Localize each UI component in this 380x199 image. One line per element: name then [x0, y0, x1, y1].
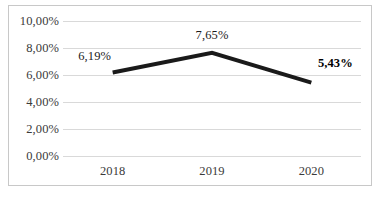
y-axis-tick-label: 10,00% [20, 14, 59, 29]
series-polyline [113, 53, 312, 83]
chart-frame: 10,00% 8,00% 6,00% 4,00% 2,00% 0,00% 6,1… [8, 5, 372, 186]
data-label-2018: 6,19% [78, 49, 111, 64]
data-label-2019: 7,65% [196, 28, 229, 43]
x-axis: 2018 2019 2020 [63, 158, 361, 184]
y-axis-tick-label: 6,00% [26, 68, 59, 83]
plot-area: 6,19% 7,65% 5,43% [63, 21, 361, 156]
gridline [63, 156, 361, 157]
y-axis: 10,00% 8,00% 6,00% 4,00% 2,00% 0,00% [21, 21, 59, 156]
x-axis-tick-label: 2020 [299, 164, 324, 179]
data-label-2020: 5,43% [318, 56, 353, 71]
y-axis-tick-label: 8,00% [26, 41, 59, 56]
y-axis-tick-label: 0,00% [26, 149, 59, 164]
x-axis-tick-label: 2019 [199, 164, 224, 179]
y-axis-tick-label: 2,00% [26, 122, 59, 137]
x-axis-tick-label: 2018 [100, 164, 125, 179]
y-axis-tick-label: 4,00% [26, 95, 59, 110]
